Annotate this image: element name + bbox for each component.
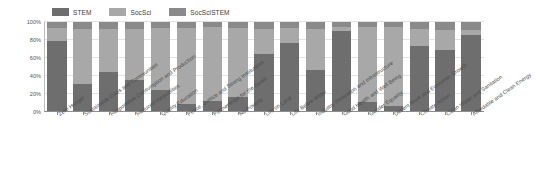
bar-segment-socsci[interactable] [435, 30, 454, 50]
y-axis-tick-label: 20% [30, 91, 41, 97]
legend-swatch-socsci [109, 8, 126, 16]
legend-label-socsci: SocSci [130, 9, 151, 16]
y-axis-tick-label: 60% [30, 55, 41, 61]
bar-segment-socscistem[interactable] [254, 22, 273, 29]
stacked-bar[interactable] [47, 22, 66, 112]
bar-segment-socscistem[interactable] [125, 22, 144, 29]
legend-item-socsci[interactable]: SocSci [109, 8, 151, 16]
bar-segment-socsci[interactable] [410, 29, 429, 46]
legend-swatch-stem [52, 8, 69, 16]
bar-segment-stem[interactable] [47, 41, 66, 112]
bar-segment-socscistem[interactable] [410, 22, 429, 29]
legend-label-socscistem: SocSciSTEM [190, 9, 229, 16]
chart-legend: STEM SocSci SocSciSTEM [52, 6, 230, 18]
bar-segment-socscistem[interactable] [306, 22, 325, 29]
bar-segment-socscistem[interactable] [435, 22, 454, 30]
y-axis-tick-label: 80% [30, 37, 41, 43]
legend-swatch-socscistem [169, 8, 186, 16]
bar-segment-socsci[interactable] [47, 28, 66, 41]
bar-segment-socsci[interactable] [73, 29, 92, 84]
bar-slot [44, 22, 70, 112]
bar-segment-socsci[interactable] [99, 29, 118, 71]
bar-segment-socscistem[interactable] [99, 22, 118, 29]
bar-segment-socsci[interactable] [254, 29, 273, 53]
x-axis-label: Affordable and Clean Energy [471, 112, 536, 118]
y-axis-tick-label: 0% [33, 109, 41, 115]
x-axis-labels: Zero HungerSustainable Cities and Commun… [44, 112, 484, 172]
y-axis-tick-label: 100% [27, 19, 41, 25]
bar-segment-socsci[interactable] [306, 29, 325, 70]
bar-segment-socsci[interactable] [280, 28, 299, 42]
y-axis-tick-label: 40% [30, 73, 41, 79]
bar-segment-socscistem[interactable] [461, 22, 480, 30]
legend-item-socscistem[interactable]: SocSciSTEM [169, 8, 229, 16]
legend-item-stem[interactable]: STEM [52, 8, 91, 16]
x-axis-label: No Poverty [238, 112, 265, 118]
bar-segment-socscistem[interactable] [73, 22, 92, 29]
legend-label-stem: STEM [73, 9, 91, 16]
